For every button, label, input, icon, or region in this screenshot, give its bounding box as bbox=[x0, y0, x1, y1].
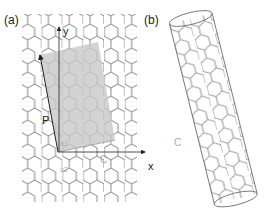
graphene-lattice bbox=[22, 14, 145, 202]
vector-C-label: C bbox=[100, 154, 107, 165]
x-axis-label: x bbox=[148, 160, 154, 172]
y-axis-label: y bbox=[63, 25, 69, 37]
vector-a1-label: a1 bbox=[60, 140, 68, 147]
tube-C-label: C bbox=[174, 137, 181, 148]
nanotube bbox=[168, 7, 259, 210]
panel-label-b: (b) bbox=[144, 13, 159, 27]
panel-label-a: (a) bbox=[4, 13, 19, 27]
vector-P-label: P bbox=[42, 114, 49, 126]
vector-a2-label: a2 bbox=[60, 166, 68, 173]
figure: (a) y x P C a1 a2 (b) C bbox=[0, 0, 270, 216]
